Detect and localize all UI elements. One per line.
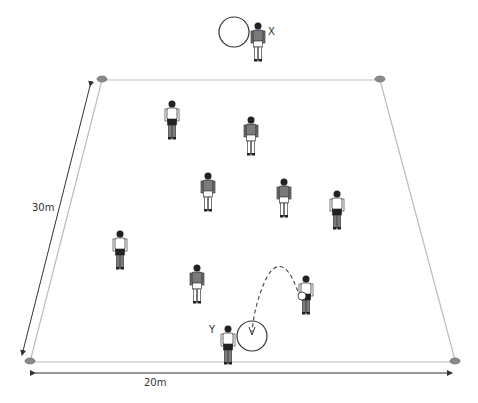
player-p5-icon [330,191,344,230]
player-y-label: Y [209,324,215,335]
player-x-label: X [268,26,275,37]
cone-icon [97,76,107,82]
player-p6-icon [113,231,127,270]
player-p4-icon [277,179,291,218]
pitch-left-line [30,80,102,362]
pitch [30,80,455,362]
player-Y-icon [221,326,235,365]
player-p7-icon [190,265,204,304]
player-p1-icon [165,101,179,140]
cone-icon [25,358,35,364]
cone-icon [375,76,385,82]
ball-icon [298,292,306,300]
width-label: 20m [144,377,166,388]
drill-diagram [0,0,478,403]
players [113,23,344,365]
pitch-right-line [380,80,455,360]
player-p8-icon [298,276,313,315]
cone-icon [450,358,460,364]
hoop-x-icon [219,17,249,47]
cones [25,76,460,364]
length-label: 30m [32,202,54,213]
player-p3-icon [201,173,215,212]
length-dimension-arrow [22,86,90,355]
player-p2-icon [244,117,258,156]
player-X-icon [251,23,265,62]
